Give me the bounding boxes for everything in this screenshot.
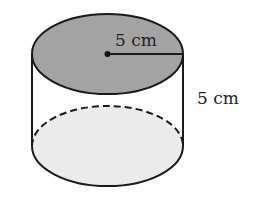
cylinder-diagram: 5 cm 5 cm	[0, 0, 262, 208]
radius-label: 5 cm	[115, 30, 157, 50]
center-point	[105, 51, 111, 57]
height-label: 5 cm	[197, 88, 239, 108]
